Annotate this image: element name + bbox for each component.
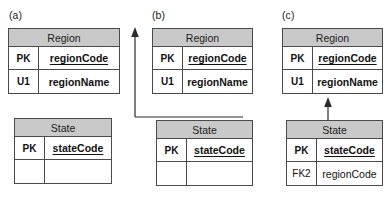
entity-table-state-a: State PK stateCode [14, 118, 112, 184]
relationship-connector-c [320, 96, 336, 122]
entity-title-region: Region [283, 29, 382, 47]
entity-row: PK regionCode [9, 47, 119, 70]
attribute-name: regionName [39, 70, 119, 93]
panel-a: (a) Region PK regionCode U1 regionName S… [0, 0, 130, 200]
panel-c: (c) Region PK regionCode U1 regionName S… [274, 0, 391, 200]
key-indicator-fk: FK2 [287, 162, 317, 185]
key-indicator: PK [283, 47, 313, 69]
key-indicator [157, 162, 187, 185]
entity-title-state: State [15, 119, 111, 137]
attribute-name [187, 162, 252, 185]
attribute-name: regionCode [183, 47, 252, 69]
attribute-name: stateCode [317, 139, 382, 161]
panel-b-label: (b) [152, 9, 165, 21]
attribute-name: stateCode [187, 139, 252, 161]
entity-row: PK stateCode [157, 139, 252, 162]
entity-row-empty [157, 162, 252, 185]
entity-title-region: Region [153, 29, 252, 47]
entity-table-region-c: Region PK regionCode U1 regionName [282, 28, 383, 94]
entity-title-state: State [287, 121, 382, 139]
entity-row: PK stateCode [287, 139, 382, 162]
key-indicator: U1 [9, 70, 39, 93]
key-indicator: PK [9, 47, 39, 69]
entity-table-region-a: Region PK regionCode U1 regionName [8, 28, 120, 94]
key-indicator: U1 [283, 70, 313, 93]
entity-row: PK regionCode [153, 47, 252, 70]
key-indicator: U1 [153, 70, 183, 93]
entity-row: U1 regionName [153, 70, 252, 93]
entity-table-region-b: Region PK regionCode U1 regionName [152, 28, 253, 94]
key-indicator: PK [287, 139, 317, 161]
attribute-name [45, 160, 111, 183]
entity-row: FK2 regionCode [287, 162, 382, 185]
entity-table-state-b: State PK stateCode [156, 120, 253, 186]
attribute-name: regionName [313, 70, 382, 93]
panel-c-label: (c) [282, 9, 295, 21]
key-indicator: PK [15, 137, 45, 159]
entity-title-region: Region [9, 29, 119, 47]
attribute-name: stateCode [45, 137, 111, 159]
panel-b: (b) Region PK regionCode U1 regionName S… [144, 0, 268, 200]
entity-row-empty [15, 160, 111, 183]
entity-table-state-c: State PK stateCode FK2 regionCode [286, 120, 383, 186]
attribute-name: regionCode [39, 47, 119, 69]
key-indicator [15, 160, 45, 183]
entity-row: PK regionCode [283, 47, 382, 70]
key-indicator: PK [157, 139, 187, 161]
key-indicator: PK [153, 47, 183, 69]
entity-row: U1 regionName [283, 70, 382, 93]
entity-row: U1 regionName [9, 70, 119, 93]
attribute-name: regionCode [313, 47, 382, 69]
panel-a-label: (a) [9, 9, 22, 21]
attribute-name: regionCode [317, 162, 382, 185]
attribute-name: regionName [183, 70, 252, 93]
entity-title-state: State [157, 121, 252, 139]
entity-row: PK stateCode [15, 137, 111, 160]
